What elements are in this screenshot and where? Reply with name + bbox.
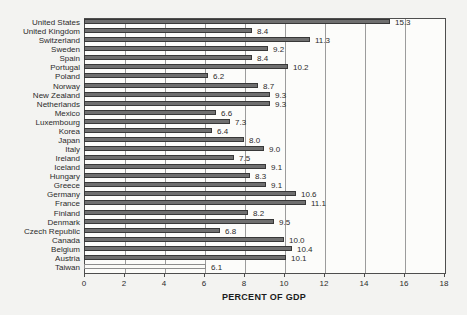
x-axis-tick-label: 0	[74, 279, 94, 288]
x-axis-tick	[444, 273, 445, 277]
category-label: Greece	[0, 181, 80, 190]
value-label: 6.8	[225, 228, 236, 235]
value-label: 9.5	[279, 219, 290, 226]
bar	[84, 19, 390, 24]
category-label: France	[0, 199, 80, 208]
bar	[84, 155, 234, 160]
value-label: 8.7	[263, 83, 274, 90]
value-label: 9.3	[275, 92, 286, 99]
x-axis-tick	[364, 273, 365, 277]
category-label: New Zealand	[0, 91, 80, 100]
value-label: 6.4	[217, 128, 228, 135]
gridline	[285, 19, 286, 273]
bar	[84, 219, 274, 224]
bar	[84, 182, 266, 187]
value-label: 8.3	[255, 173, 266, 180]
x-axis-tick-label: 14	[354, 279, 374, 288]
category-label: Sweden	[0, 45, 80, 54]
value-label: 6.6	[221, 110, 232, 117]
bar	[84, 228, 220, 233]
value-label: 9.2	[273, 46, 284, 53]
value-label: 10.0	[289, 237, 305, 244]
gridline	[325, 19, 326, 273]
category-label: Poland	[0, 72, 80, 81]
value-label: 10.4	[297, 246, 313, 253]
bar	[84, 101, 270, 106]
category-label: Taiwan	[0, 263, 80, 272]
category-label: Czech Republic	[0, 227, 80, 236]
gridline	[365, 19, 366, 273]
category-label: United States	[0, 18, 80, 27]
value-label: 10.1	[291, 255, 307, 262]
value-label: 6.2	[213, 73, 224, 80]
category-label: Austria	[0, 254, 80, 263]
category-label: Switzerland	[0, 36, 80, 45]
gridline	[405, 19, 406, 273]
category-label: Norway	[0, 82, 80, 91]
bar	[84, 255, 286, 260]
bar	[84, 37, 310, 42]
x-axis-tick	[124, 273, 125, 277]
x-axis-tick-label: 2	[114, 279, 134, 288]
bar	[84, 191, 296, 196]
x-axis-tick	[164, 273, 165, 277]
category-label: Iceland	[0, 163, 80, 172]
category-label: Denmark	[0, 218, 80, 227]
bar	[84, 164, 266, 169]
bar	[84, 146, 264, 151]
x-axis-tick	[204, 273, 205, 277]
category-label: Canada	[0, 236, 80, 245]
value-label: 10.6	[301, 191, 317, 198]
bar-chart: United StatesUnited KingdomSwitzerlandSw…	[0, 0, 467, 315]
x-axis-tick-label: 16	[394, 279, 414, 288]
bar	[84, 83, 258, 88]
bar	[84, 119, 230, 124]
value-label: 8.4	[257, 55, 268, 62]
x-axis-tick	[404, 273, 405, 277]
x-axis-tick	[324, 273, 325, 277]
x-axis-tick	[84, 273, 85, 277]
bar	[84, 137, 244, 142]
category-label: Finland	[0, 209, 80, 218]
category-label: Spain	[0, 54, 80, 63]
bar	[84, 46, 268, 51]
category-label: Portugal	[0, 63, 80, 72]
bar	[84, 237, 284, 242]
category-label: Japan	[0, 136, 80, 145]
value-label: 8.2	[253, 210, 264, 217]
value-label: 9.3	[275, 101, 286, 108]
value-label: 7.5	[239, 155, 250, 162]
bar	[84, 73, 208, 78]
value-label: 15.3	[395, 19, 411, 26]
value-label: 8.4	[257, 28, 268, 35]
category-label: Ireland	[0, 154, 80, 163]
value-label: 8.0	[249, 137, 260, 144]
x-axis-tick	[244, 273, 245, 277]
value-label: 9.0	[269, 146, 280, 153]
bar	[84, 264, 206, 269]
bar	[84, 128, 212, 133]
value-label: 9.1	[271, 164, 282, 171]
bar	[84, 55, 252, 60]
x-axis-tick-label: 4	[154, 279, 174, 288]
category-label: Belgium	[0, 245, 80, 254]
bar	[84, 110, 216, 115]
x-axis-tick-label: 10	[274, 279, 294, 288]
bar	[84, 173, 250, 178]
category-label: Netherlands	[0, 100, 80, 109]
bar	[84, 200, 306, 205]
value-label: 11.1	[311, 200, 326, 207]
value-label: 7.3	[235, 119, 246, 126]
category-label: Luxembourg	[0, 118, 80, 127]
x-axis-tick-label: 18	[434, 279, 454, 288]
category-label: United Kingdom	[0, 27, 80, 36]
category-label: Hungary	[0, 172, 80, 181]
value-label: 6.1	[211, 264, 222, 271]
x-axis-title: PERCENT OF GDP	[84, 292, 444, 302]
category-label: Mexico	[0, 109, 80, 118]
category-label: Korea	[0, 127, 80, 136]
x-axis-tick-label: 8	[234, 279, 254, 288]
x-axis-tick-label: 12	[314, 279, 334, 288]
bar	[84, 28, 252, 33]
bar	[84, 64, 288, 69]
